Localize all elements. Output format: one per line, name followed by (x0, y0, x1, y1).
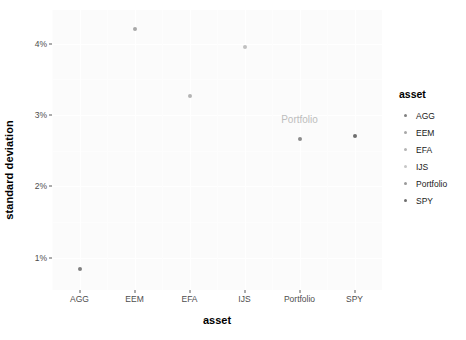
legend-key-dot-icon (399, 126, 412, 139)
legend-key-dot-icon (399, 194, 412, 207)
gridline-major-x (80, 10, 81, 290)
gridline-major-x (190, 10, 191, 290)
y-axis: 1%2%3%4% (14, 0, 52, 340)
y-tick-label: 1% (13, 253, 47, 263)
dot-icon (404, 114, 408, 118)
legend-item-label: Portfolio (416, 179, 447, 189)
legend-item-portfolio[interactable]: Portfolio (399, 175, 465, 192)
x-tick-label-efa: EFA (181, 294, 197, 304)
x-axis-title: asset (52, 314, 382, 326)
x-tick-mark (354, 290, 355, 293)
legend-item-agg[interactable]: AGG (399, 107, 465, 124)
x-tick-mark (189, 290, 190, 293)
dot-icon (404, 199, 408, 203)
legend-key-dot-icon (399, 177, 412, 190)
gridline-minor-x (52, 10, 53, 290)
x-tick-mark (79, 290, 80, 293)
legend-items: AGGEEMEFAIJSPortfolioSPY (399, 107, 465, 209)
legend-item-label: IJS (416, 162, 428, 172)
legend-key-dot-icon (399, 143, 412, 156)
data-point-ijs (243, 45, 247, 49)
legend-item-ijs[interactable]: IJS (399, 158, 465, 175)
dot-icon (404, 148, 408, 152)
scatter-plot-figure: standard deviation 1%2%3%4% Portfolio AG… (0, 0, 466, 340)
gridline-major-x (135, 10, 136, 290)
data-point-agg (78, 267, 82, 271)
x-tick-label-agg: AGG (70, 294, 89, 304)
x-tick-mark (244, 290, 245, 293)
gridline-major-x (355, 10, 356, 290)
data-point-eem (133, 27, 137, 31)
legend-item-label: EFA (416, 145, 432, 155)
x-tick-mark (299, 290, 300, 293)
legend-item-efa[interactable]: EFA (399, 141, 465, 158)
x-tick-label-spy: SPY (346, 294, 363, 304)
legend-item-spy[interactable]: SPY (399, 192, 465, 209)
gridline-minor-x (272, 10, 273, 290)
x-axis: AGGEEMEFAIJSPortfolioSPY (52, 290, 382, 316)
legend: asset AGGEEMEFAIJSPortfolioSPY (399, 88, 465, 209)
legend-key-dot-icon (399, 109, 412, 122)
x-tick-label-eem: EEM (125, 294, 143, 304)
x-tick-label-portfolio: Portfolio (284, 294, 315, 304)
dot-icon (404, 182, 408, 186)
legend-item-label: EEM (416, 128, 434, 138)
legend-item-label: AGG (416, 111, 435, 121)
dot-icon (404, 165, 408, 169)
data-point-portfolio (298, 137, 302, 141)
y-tick-label: 3% (13, 110, 47, 120)
gridline-major-x (300, 10, 301, 290)
legend-item-eem[interactable]: EEM (399, 124, 465, 141)
legend-item-label: SPY (416, 196, 433, 206)
y-tick-label: 2% (13, 181, 47, 191)
gridline-major-x (245, 10, 246, 290)
data-point-efa (188, 94, 192, 98)
plot-panel: Portfolio (52, 10, 382, 290)
dot-icon (404, 131, 408, 135)
gridline-minor-x (217, 10, 218, 290)
gridline-minor-x (107, 10, 108, 290)
x-tick-mark (134, 290, 135, 293)
x-tick-label-ijs: IJS (238, 294, 250, 304)
legend-title: asset (399, 88, 465, 100)
gridline-minor-x (162, 10, 163, 290)
point-annotation-label: Portfolio (281, 113, 318, 124)
data-point-spy (353, 134, 357, 138)
legend-key-dot-icon (399, 160, 412, 173)
gridline-minor-x (327, 10, 328, 290)
y-tick-label: 4% (13, 39, 47, 49)
